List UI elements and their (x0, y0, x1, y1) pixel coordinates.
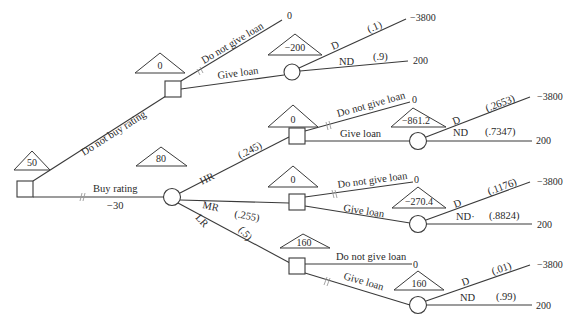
lr-no-loan-payoff: 0 (413, 259, 418, 270)
lr-d-payoff: −3800 (537, 259, 563, 270)
branch-buy-rating: Buy rating −30 (33, 183, 164, 211)
mr-decision-node (289, 194, 305, 210)
hr-prob: (.245) (236, 139, 264, 161)
root-decision-node (17, 181, 33, 197)
hr-label: HR (198, 170, 216, 186)
hr-chance-node (410, 133, 427, 150)
mr-chance-ev-value: −270.4 (405, 196, 433, 207)
lr-no-loan-label: Do not give loan (336, 251, 407, 262)
no-rating-decision: 0 (135, 53, 185, 97)
hr-d-prob: (.2653) (484, 92, 517, 114)
hr-no-loan-label: Do not give loan (336, 89, 407, 119)
nr-give-loan-label: Give loan (217, 65, 260, 81)
lr-ev-value: 160 (297, 237, 312, 248)
nr-no-loan-label: Do not give loan (199, 20, 266, 66)
nr-nd-payoff: 200 (413, 55, 428, 66)
hr-d-payoff: −3800 (537, 91, 563, 102)
lr-prob: (.5) (236, 224, 255, 243)
nr-nd-prob: (.9) (373, 51, 388, 63)
hr-chance-ev-value: −861.2 (402, 115, 430, 126)
hr-decision-node (289, 128, 305, 144)
hr-d-label: D (451, 114, 462, 127)
nr-chance-node (284, 64, 300, 80)
mr-chance-node (410, 216, 427, 233)
root-ev-value: 50 (27, 157, 37, 168)
hr-ev-value: 0 (291, 114, 296, 125)
lr-give-loan-label: Give loan (342, 270, 385, 292)
rating-chance-node (164, 189, 181, 206)
mr-nd-payoff: 200 (537, 219, 552, 230)
mr-give-loan-label: Give loan (343, 202, 386, 219)
lr-chance-node (410, 297, 427, 314)
nr-d-payoff: −3800 (410, 12, 436, 23)
mr-nd-prob: (.8824) (489, 210, 520, 222)
lr-nd-label: ND (460, 292, 476, 303)
mr-d-label: D (452, 197, 463, 210)
nr-ev-value: 0 (158, 60, 163, 71)
hr-nd-label: ND (453, 127, 469, 138)
mr-label: MR (202, 199, 220, 213)
hr-nd-payoff: 200 (536, 135, 551, 146)
nr-decision-node (165, 81, 181, 97)
buy-rating-label: Buy rating (93, 183, 138, 194)
mr-no-loan-payoff: 0 (414, 174, 419, 185)
nr-nd-label: ND (339, 56, 355, 67)
rating-ev-value: 80 (156, 153, 166, 164)
nr-chance-ev-value: −200 (285, 42, 306, 53)
lr-nd-prob: (.99) (496, 291, 517, 303)
lr-nd-payoff: 200 (536, 300, 551, 311)
lr-decision-node (289, 258, 305, 274)
no-rating-label: Do not buy rating (79, 108, 148, 158)
mr-ev-value: 0 (291, 174, 296, 185)
lr-label: LR (194, 212, 211, 229)
branch-no-rating: Do not buy rating (33, 96, 166, 181)
mr-d-payoff: −3800 (537, 176, 563, 187)
hr-give-loan-label: Give loan (340, 128, 382, 139)
buy-rating-cost: −30 (107, 200, 123, 211)
hr-nd-prob: (.7347) (485, 126, 516, 138)
lr-chance-ev-value: 160 (412, 278, 427, 289)
mr-nd-label: ND· (456, 211, 475, 222)
mr-no-loan-label: Do not give loan (337, 170, 409, 190)
decision-tree-diagram: 50 Do not buy rating Buy rating −30 0 Do… (0, 0, 575, 327)
hr-no-loan-payoff: 0 (412, 94, 417, 105)
nr-no-loan-payoff: 0 (287, 10, 292, 21)
mr-d-prob: (.1176) (486, 176, 519, 198)
mr-prob: (.255) (233, 208, 261, 224)
